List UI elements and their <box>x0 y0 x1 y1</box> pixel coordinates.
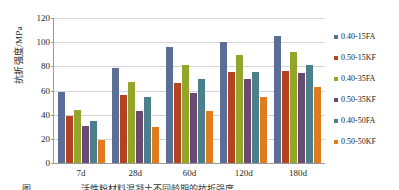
legend-label: 0.40-15FA <box>341 32 375 41</box>
bar <box>306 65 313 163</box>
legend: 0.40-15FA0.50-15KF0.40-35FA0.50-35KF0.40… <box>334 26 399 152</box>
legend-label: 0.40-50FA <box>341 116 375 125</box>
bar <box>198 79 205 163</box>
bar <box>290 52 297 163</box>
legend-swatch-icon <box>334 35 338 39</box>
legend-item[interactable]: 0.50-50KF <box>334 131 399 152</box>
bar <box>120 95 127 163</box>
bar <box>220 42 227 163</box>
bar-group-28d: 28d <box>108 18 162 163</box>
y-tick-label: 80 <box>41 62 50 71</box>
legend-label: 0.50-15KF <box>341 53 376 62</box>
legend-label: 0.40-35FA <box>341 74 375 83</box>
legend-item[interactable]: 0.50-15KF <box>334 47 399 68</box>
legend-swatch-icon <box>334 98 338 102</box>
bar <box>206 111 213 163</box>
x-tick-label: 180d <box>271 169 325 178</box>
bar <box>260 97 267 163</box>
y-axis-title: 抗折强度/MPa <box>14 0 24 110</box>
bar <box>298 73 305 163</box>
bar <box>98 140 105 163</box>
legend-swatch-icon <box>334 56 338 60</box>
bar <box>166 47 173 163</box>
legend-swatch-icon <box>334 77 338 81</box>
bar <box>282 71 289 163</box>
bar <box>66 116 73 163</box>
bar <box>90 121 97 163</box>
legend-item[interactable]: 0.40-15FA <box>334 26 399 47</box>
flexural-strength-bar-chart: 抗折强度/MPa 020406080100120 7d28d60d120d180… <box>0 0 399 190</box>
bar <box>244 79 251 163</box>
bar <box>174 83 181 163</box>
legend-swatch-icon <box>334 119 338 123</box>
y-tick-label: 20 <box>41 134 50 143</box>
x-tick-label: 120d <box>217 169 271 178</box>
y-tick-label: 40 <box>41 110 50 119</box>
y-tick-label: 100 <box>37 38 51 47</box>
bar <box>182 65 189 163</box>
bar <box>144 97 151 163</box>
bar <box>236 55 243 163</box>
legend-swatch-icon <box>334 140 338 144</box>
y-tick-mark <box>51 163 54 164</box>
bar-groups: 7d28d60d120d180d <box>54 18 325 163</box>
bar <box>74 110 81 163</box>
figure-caption: 图 活性粉材料混凝土不同龄期的抗折强度 <box>0 184 399 190</box>
x-tick-label: 60d <box>162 169 216 178</box>
bar <box>58 92 65 163</box>
bar <box>128 82 135 163</box>
y-tick-label: 60 <box>41 86 50 95</box>
bar <box>274 36 281 163</box>
plot-area: 020406080100120 7d28d60d120d180d <box>53 18 325 164</box>
y-tick-label: 0 <box>46 159 51 168</box>
x-tick-label: 7d <box>54 169 108 178</box>
bar <box>228 72 235 163</box>
x-tick-label: 28d <box>108 169 162 178</box>
bar-group-60d: 60d <box>162 18 216 163</box>
bar-group-180d: 180d <box>271 18 325 163</box>
bar <box>252 72 259 163</box>
bar <box>190 93 197 163</box>
legend-item[interactable]: 0.50-35KF <box>334 89 399 110</box>
legend-label: 0.50-35KF <box>341 95 376 104</box>
bar <box>136 111 143 163</box>
legend-label: 0.50-50KF <box>341 137 376 146</box>
figure-caption-text: 图 活性粉材料混凝土不同龄期的抗折强度 <box>0 184 399 190</box>
bar <box>82 126 89 163</box>
bar-group-120d: 120d <box>217 18 271 163</box>
bar-group-7d: 7d <box>54 18 108 163</box>
y-tick-label: 120 <box>37 14 51 23</box>
legend-item[interactable]: 0.40-35FA <box>334 68 399 89</box>
legend-item[interactable]: 0.40-50FA <box>334 110 399 131</box>
bar <box>112 68 119 163</box>
bar <box>314 87 321 163</box>
bar <box>152 127 159 163</box>
